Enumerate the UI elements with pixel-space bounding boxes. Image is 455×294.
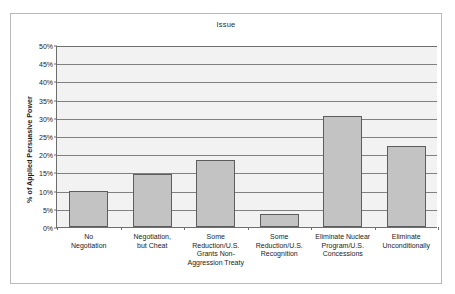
y-tick-label: 10% xyxy=(39,188,53,195)
x-axis-label-line: No xyxy=(57,233,121,242)
x-axis-label-line: Negotiation, xyxy=(121,233,185,242)
bar xyxy=(323,116,362,227)
y-tick-label: 0% xyxy=(43,225,53,232)
x-axis-label-line: Recognition xyxy=(248,250,312,259)
bar xyxy=(260,214,299,227)
x-axis-label-line: Grants Non- xyxy=(184,250,248,259)
chart-frame: Issue % of Applied Persuasive Power 50%4… xyxy=(10,13,442,284)
x-axis-label-line: Some xyxy=(248,233,312,242)
y-tick-mark xyxy=(54,46,57,47)
y-tick-label: 30% xyxy=(39,115,53,122)
y-tick-label: 20% xyxy=(39,152,53,159)
gridline xyxy=(57,82,437,83)
y-tick-mark xyxy=(54,191,57,192)
gridline xyxy=(57,101,437,102)
chart-title: Issue xyxy=(11,20,441,29)
gridline xyxy=(57,46,437,47)
y-tick-label: 5% xyxy=(43,206,53,213)
x-axis-label: SomeReduction/U.S.Grants Non-Aggression … xyxy=(184,233,248,267)
gridline xyxy=(57,192,437,193)
gridline xyxy=(57,119,437,120)
x-axis-label-line: Concessions xyxy=(311,250,375,259)
y-tick-mark xyxy=(54,137,57,138)
x-axis-label: Negotiation,but Cheat xyxy=(121,233,185,250)
x-tick-mark xyxy=(184,227,185,230)
gridline xyxy=(57,64,437,65)
bar xyxy=(69,191,108,227)
y-tick-mark xyxy=(54,155,57,156)
gridline xyxy=(57,210,437,211)
plot-area: 50%45%40%35%30%25%20%15%10%5%0% NoNegoti… xyxy=(56,46,437,228)
y-tick-mark xyxy=(54,118,57,119)
y-tick-label: 50% xyxy=(39,43,53,50)
x-axis-label-line: but Cheat xyxy=(121,242,185,251)
gridline xyxy=(57,137,437,138)
y-tick-label: 25% xyxy=(39,134,53,141)
x-tick-mark xyxy=(375,227,376,230)
x-tick-mark xyxy=(248,227,249,230)
x-tick-mark xyxy=(57,227,58,230)
x-axis-label-line: Reduction/U.S. xyxy=(248,242,312,251)
x-axis-label-line: Unconditionally xyxy=(375,242,439,251)
y-tick-label: 45% xyxy=(39,61,53,68)
x-tick-mark xyxy=(311,227,312,230)
bar xyxy=(133,174,172,227)
x-axis-label: EliminateUnconditionally xyxy=(375,233,439,250)
bar xyxy=(387,146,426,227)
x-axis-label-line: Some xyxy=(184,233,248,242)
x-axis-label: SomeReduction/U.S.Recognition xyxy=(248,233,312,259)
gridline xyxy=(57,155,437,156)
y-tick-label: 15% xyxy=(39,170,53,177)
bar xyxy=(196,160,235,227)
x-tick-mark xyxy=(438,227,439,230)
x-tick-mark xyxy=(121,227,122,230)
y-tick-mark xyxy=(54,82,57,83)
gridline xyxy=(57,173,437,174)
x-axis-label: NoNegotiation xyxy=(57,233,121,250)
x-axis-label-line: Aggression Treaty xyxy=(184,259,248,268)
x-axis-label-line: Reduction/U.S. xyxy=(184,242,248,251)
x-axis-label-line: Eliminate xyxy=(375,233,439,242)
y-tick-mark xyxy=(54,64,57,65)
y-tick-label: 40% xyxy=(39,79,53,86)
y-tick-mark xyxy=(54,209,57,210)
x-axis-label-line: Negotiation xyxy=(57,242,121,251)
y-tick-mark xyxy=(54,173,57,174)
x-axis-label: Eliminate NuclearProgram/U.S.Concessions xyxy=(311,233,375,259)
y-axis-title: % of Applied Persuasive Power xyxy=(25,70,34,230)
y-tick-label: 35% xyxy=(39,97,53,104)
x-axis-label-line: Eliminate Nuclear xyxy=(311,233,375,242)
y-tick-mark xyxy=(54,100,57,101)
x-axis-label-line: Program/U.S. xyxy=(311,242,375,251)
